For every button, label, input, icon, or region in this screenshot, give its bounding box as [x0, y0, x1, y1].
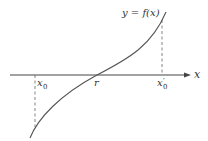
x0-prime-label: x ′ 0	[157, 76, 167, 91]
x-axis-label: x	[194, 68, 201, 81]
x0-label: x 0	[37, 77, 47, 91]
root-label: r	[94, 77, 100, 88]
svg-text:0: 0	[43, 83, 47, 91]
svg-text:0: 0	[163, 83, 167, 91]
diagram-canvas: x y = f(x) x 0 r x ′ 0	[0, 0, 208, 141]
curve-label: y = f(x)	[121, 7, 160, 18]
x-axis-arrow-icon	[184, 73, 191, 78]
